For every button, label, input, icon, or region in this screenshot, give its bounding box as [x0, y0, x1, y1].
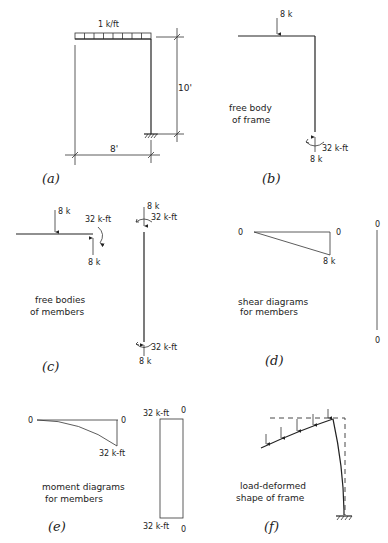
panel-b-free-body-frame: 8 k free body of frame 32 k-ft 8 k (b) [229, 10, 348, 186]
caption-line-1: free bodies [35, 295, 86, 305]
beam-shear-diagram [254, 232, 330, 255]
caption-line-1: shear diagrams [238, 297, 308, 307]
beam-reaction-label: 8 k [88, 258, 101, 267]
base-moment-label: 32 k-ft [322, 144, 348, 153]
fixed-support-icon [336, 516, 352, 520]
beam-shear-right-label: 0 [336, 228, 341, 237]
beam-moment-max-label: 32 k-ft [99, 449, 125, 458]
height-label: 10' [178, 83, 192, 93]
column-moment-top-zero: 0 [181, 406, 186, 415]
panel-e-moment-diagrams: 0 0 32 k-ft moment diagrams for members … [28, 406, 186, 534]
panel-a-frame: 1 k/ft 10' 8' (a) [42, 20, 192, 186]
top-load-label: 8 k [280, 10, 293, 19]
panel-d-shear-diagrams: 0 0 8 k shear diagrams for members 0 0 (… [238, 220, 380, 368]
panel-tag-e: (e) [48, 519, 66, 534]
caption-line-2: for members [240, 307, 298, 317]
column-bottom-moment-label: 32 k-ft [151, 343, 177, 352]
caption-line-1: moment diagrams [42, 482, 125, 492]
caption-line-2: for members [45, 494, 103, 504]
beam-moment-arrow-icon [98, 227, 103, 243]
load-arrows-icon [266, 409, 328, 444]
beam-moment-left-label: 0 [28, 416, 33, 425]
panel-tag-f: (f) [264, 519, 279, 534]
beam-moment-right-label: 0 [121, 416, 126, 425]
fixed-support-icon [144, 134, 158, 138]
deformed-column [333, 419, 344, 515]
column-moment-bottom-label: 32 k-ft [143, 522, 169, 531]
column-shear-top-label: 0 [375, 220, 380, 229]
caption-line-1: load-deformed [240, 481, 306, 491]
panel-f-deformed-shape: load-deformed shape of frame (f) [236, 409, 352, 534]
column-top-moment-label: 32 k-ft [151, 213, 177, 222]
caption-line-2: shape of frame [236, 493, 305, 503]
panel-tag-c: (c) [42, 359, 59, 374]
distributed-load-label: 1 k/ft [98, 20, 119, 29]
beam-moment-diagram [37, 420, 117, 446]
caption-line-2: of frame [232, 115, 271, 125]
column-moment-bottom-zero: 0 [181, 525, 186, 534]
panel-tag-b: (b) [262, 171, 280, 186]
structural-frame-figure: 1 k/ft 10' 8' (a) [0, 0, 388, 543]
beam-moment-label: 32 k-ft [85, 215, 111, 224]
panel-tag-a: (a) [42, 171, 60, 186]
column-moment-top-label: 32 k-ft [143, 409, 169, 418]
span-label: 8' [110, 144, 118, 154]
distributed-load-dividers [85, 33, 142, 39]
column-shear-bottom-label: 0 [375, 336, 380, 345]
beam-load-label: 8 k [58, 207, 71, 216]
column-moment-diagram [160, 419, 183, 518]
panel-c-free-bodies: 8 k 32 k-ft 8 k free bodies of members 8… [16, 202, 177, 374]
beam-shear-left-label: 0 [238, 228, 243, 237]
base-reaction-label: 8 k [310, 155, 323, 164]
caption-line-2: of members [30, 307, 85, 317]
panel-tag-d: (d) [265, 353, 283, 368]
caption-line-1: free body [229, 103, 273, 113]
column-top-force-label: 8 k [147, 202, 160, 211]
beam-shear-max-label: 8 k [323, 257, 336, 266]
column-bottom-force-label: 8 k [139, 357, 152, 366]
